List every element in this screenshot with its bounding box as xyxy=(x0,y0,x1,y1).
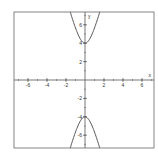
x-tick-label: -4 xyxy=(45,82,50,88)
y-tick-label: 6 xyxy=(79,22,82,28)
x-tick-label: 6 xyxy=(141,82,144,88)
y-tick-label: -2 xyxy=(78,95,83,101)
y-tick-label: -6 xyxy=(78,132,83,138)
x-tick-label: -6 xyxy=(26,82,31,88)
hyperbola-plot: -6-4-2246-6-4-2246xy xyxy=(0,0,158,153)
y-tick-label: 4 xyxy=(79,40,82,46)
x-tick-label: -2 xyxy=(64,82,69,88)
x-tick-label: 4 xyxy=(122,82,125,88)
y-tick-label: -4 xyxy=(78,114,83,120)
x-tick-label: 2 xyxy=(103,82,106,88)
y-tick-label: 2 xyxy=(79,59,82,65)
